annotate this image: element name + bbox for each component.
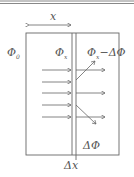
delta-phi-label: ΔΦ bbox=[82, 139, 100, 152]
top-rule bbox=[0, 1, 134, 4]
diagram-canvas: x Φ0 Φx Φx−ΔΦ ΔΦ Δx bbox=[0, 0, 134, 177]
phi0-label: Φ0 bbox=[7, 46, 20, 60]
phix-label: Φx bbox=[55, 46, 68, 60]
incoming-flux-arrows bbox=[42, 70, 71, 117]
scattered-flux-arrows bbox=[76, 61, 96, 124]
phix-minus-dphi-label: Φx−ΔΦ bbox=[87, 46, 126, 60]
delta-x-label: Δx bbox=[63, 159, 79, 172]
x-label: x bbox=[50, 10, 57, 23]
transmitted-flux-arrows bbox=[76, 70, 105, 117]
